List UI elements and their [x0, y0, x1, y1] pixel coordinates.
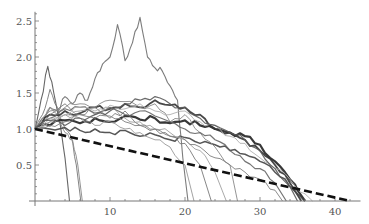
- series-layer: [35, 17, 313, 201]
- x-tick-label: 40: [329, 206, 342, 217]
- y-tick-label: 2.5: [16, 16, 32, 27]
- y-tick-label: 2.0: [16, 52, 32, 63]
- x-tick-label: 20: [179, 206, 192, 217]
- y-tick-label: 1.0: [16, 124, 32, 135]
- series-line-path-9: [35, 115, 194, 201]
- series-line-path-10: [35, 104, 211, 201]
- x-tick-label: 10: [104, 206, 117, 217]
- y-tick-label: 1.5: [16, 88, 32, 99]
- y-tick-label: 0.5: [16, 160, 32, 171]
- x-tick-label: 30: [254, 206, 267, 217]
- chart: 102030400.51.01.52.02.5: [0, 0, 369, 224]
